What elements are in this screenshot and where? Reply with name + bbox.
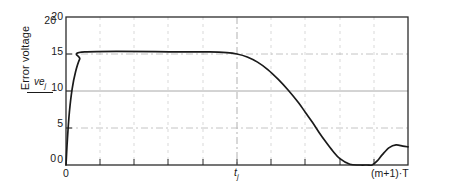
axis-tick-marks [66, 54, 374, 165]
error-voltage-chart-figure: Error voltage vej 20 0 20 15 10 5 0 0 tj… [0, 0, 457, 191]
plot-area-svg [0, 0, 457, 191]
